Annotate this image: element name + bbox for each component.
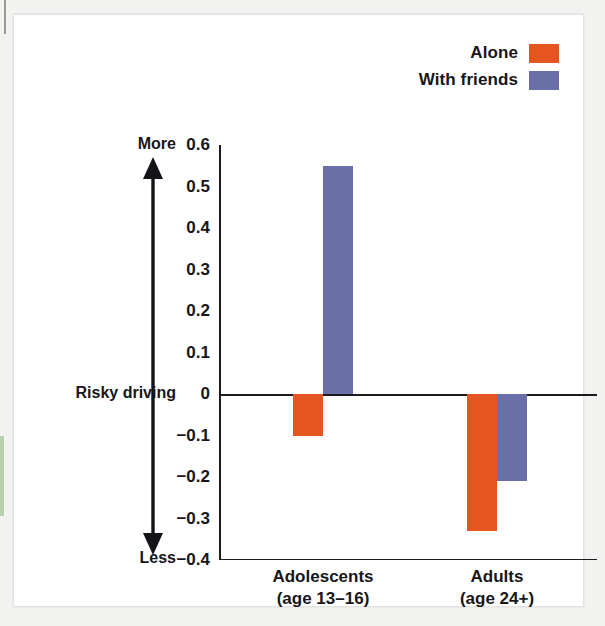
- chart-plot-area: 0.6 0.5 0.4 0.3 0.2 0.1 0 −0.1 −0.2 −0.3…: [219, 145, 597, 560]
- y-tick-label: 0.1: [186, 343, 210, 363]
- bar-adults-alone[interactable]: [467, 394, 497, 531]
- y-tick-label: −0.4: [176, 550, 210, 570]
- bar-adolescents-with-friends[interactable]: [323, 166, 353, 394]
- y-axis-line: [219, 145, 221, 560]
- y-tick-label: −0.1: [176, 426, 210, 446]
- y-tick-label: −0.2: [176, 467, 210, 487]
- y-tick-label: 0.5: [186, 177, 210, 197]
- y-tick-label: 0.4: [186, 218, 210, 238]
- y-tick-label: −0.3: [176, 509, 210, 529]
- legend-swatch-with-friends: [529, 71, 559, 90]
- zero-baseline: [219, 394, 597, 396]
- page-edge-green-accent: [0, 436, 4, 516]
- figure-root: Alone With friends More Risky driving Le…: [0, 0, 605, 626]
- x-axis-line: [219, 559, 597, 561]
- double-headed-arrow-icon: [136, 157, 170, 555]
- y-tick-label: 0.3: [186, 260, 210, 280]
- y-tick-label: 0.2: [186, 301, 210, 321]
- legend-item-with-friends: With friends: [419, 70, 559, 90]
- legend-swatch-alone: [529, 44, 559, 63]
- legend-item-alone: Alone: [470, 43, 559, 63]
- x-category-adults: Adults (age 24+): [460, 566, 534, 610]
- y-tick-label: 0.6: [186, 135, 210, 155]
- x-category-sublabel: (age 24+): [460, 588, 534, 610]
- annotation-label-more: More: [32, 135, 176, 153]
- annotation-label-less: Less: [32, 549, 176, 567]
- bar-adolescents-alone[interactable]: [293, 394, 323, 436]
- x-category-adolescents: Adolescents (age 13–16): [272, 566, 373, 610]
- y-tick-label: 0: [201, 384, 210, 404]
- chart-legend: Alone With friends: [419, 43, 559, 90]
- legend-label-alone: Alone: [470, 43, 518, 63]
- x-category-label: Adolescents: [272, 566, 373, 588]
- bar-adults-with-friends[interactable]: [497, 394, 527, 481]
- annotation-label-risky-driving: Risky driving: [22, 384, 176, 402]
- risky-driving-axis-annotation: More Risky driving Less: [32, 135, 184, 575]
- x-category-label: Adults: [460, 566, 534, 588]
- x-category-sublabel: (age 13–16): [272, 588, 373, 610]
- chart-figure-frame: Alone With friends More Risky driving Le…: [13, 14, 584, 607]
- legend-label-with-friends: With friends: [419, 70, 518, 90]
- page-edge-tick-mark: [4, 0, 6, 34]
